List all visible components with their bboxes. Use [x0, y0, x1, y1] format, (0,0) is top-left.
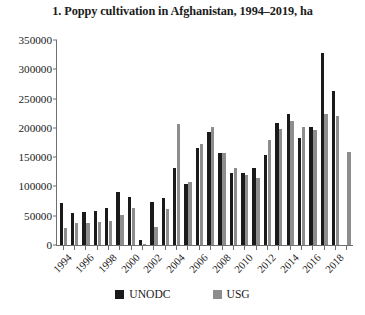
x-axis-tick-mark: [312, 245, 313, 250]
bar-group: [193, 40, 204, 245]
bar-group: [102, 40, 113, 245]
bar-usg: [64, 228, 67, 245]
bar-group: [341, 40, 352, 245]
bar-usg: [211, 127, 214, 245]
bar-group: [239, 40, 250, 245]
x-axis-tick-label: 2014: [278, 252, 301, 275]
bar-group: [307, 40, 318, 245]
x-axis-tick-mark: [153, 245, 154, 250]
x-axis-tick-mark: [256, 245, 257, 250]
bar-usg: [109, 221, 112, 245]
legend-swatch: [115, 290, 124, 299]
bar-usg: [347, 152, 350, 245]
x-axis-tick-mark: [165, 245, 166, 250]
bar-usg: [143, 244, 146, 245]
bar-group: [148, 40, 159, 245]
bar-usg: [279, 129, 282, 245]
bar-group: [68, 40, 79, 245]
x-axis-tick-mark: [267, 245, 268, 250]
x-axis-tick-mark: [222, 245, 223, 250]
bar-group: [250, 40, 261, 245]
bar-group: [80, 40, 91, 245]
x-axis-tick-mark: [176, 245, 177, 250]
plot-area: 3500003000002500002000001500001000005000…: [57, 40, 352, 245]
bar-usg: [302, 127, 305, 245]
bar-unodc: [82, 212, 85, 245]
bar-unodc: [196, 148, 199, 245]
x-axis-tick-label: 2016: [301, 252, 324, 275]
bar-unodc: [207, 132, 210, 245]
bar-unodc: [116, 192, 119, 245]
x-axis-tick-label: 2002: [142, 252, 165, 275]
chart-figure: 1. Poppy cultivation in Afghanistan, 199…: [0, 0, 365, 315]
x-axis-tick-label: 2008: [210, 252, 233, 275]
x-axis-tick-label: 1998: [96, 252, 119, 275]
bar-usg: [268, 140, 271, 245]
y-axis-tick-label: 200000: [18, 122, 57, 134]
y-axis-tick-label: 100000: [18, 180, 57, 192]
legend-swatch: [213, 290, 222, 299]
bar-group: [205, 40, 216, 245]
bar-group: [227, 40, 238, 245]
bar-unodc: [309, 127, 312, 245]
bar-usg: [132, 208, 135, 245]
bar-unodc: [105, 208, 108, 245]
legend-label: UNODC: [129, 288, 170, 301]
x-axis-tick-label: 2006: [187, 252, 210, 275]
x-axis-tick-mark: [335, 245, 336, 250]
x-axis-line: [56, 245, 353, 246]
bar-unodc: [139, 240, 142, 245]
y-axis-tick-label: 250000: [18, 93, 57, 105]
bar-unodc: [275, 123, 278, 245]
bar-unodc: [162, 198, 165, 245]
bar-unodc: [150, 202, 153, 245]
x-axis-tick-mark: [142, 245, 143, 250]
bar-unodc: [321, 53, 324, 245]
x-axis-tick-mark: [97, 245, 98, 250]
y-axis-tick-label: 350000: [18, 34, 57, 46]
x-axis-tick-mark: [119, 245, 120, 250]
bar-usg: [177, 124, 180, 245]
bar-usg: [188, 182, 191, 245]
bar-group: [57, 40, 68, 245]
bar-usg: [98, 222, 101, 245]
bar-group: [284, 40, 295, 245]
bar-group: [159, 40, 170, 245]
bar-usg: [222, 153, 225, 245]
bar-unodc: [287, 114, 290, 245]
chart-legend: UNODCUSG: [0, 288, 365, 301]
bar-usg: [245, 175, 248, 245]
y-axis-tick-label: 300000: [18, 63, 57, 75]
bar-usg: [166, 209, 169, 245]
bar-group: [170, 40, 181, 245]
bar-unodc: [241, 173, 244, 245]
x-axis-tick-mark: [108, 245, 109, 250]
bar-unodc: [71, 213, 74, 245]
bar-usg: [290, 121, 293, 245]
bar-usg: [120, 215, 123, 245]
x-axis-tick-label: 2004: [164, 252, 187, 275]
x-axis-tick-mark: [85, 245, 86, 250]
bar-usg: [313, 130, 316, 245]
bar-unodc: [184, 184, 187, 245]
bar-group: [216, 40, 227, 245]
bar-group: [136, 40, 147, 245]
x-axis-tick-mark: [131, 245, 132, 250]
x-axis-tick-mark: [244, 245, 245, 250]
x-axis-tick-mark: [346, 245, 347, 250]
x-axis-tick-mark: [63, 245, 64, 250]
bar-usg: [86, 223, 89, 245]
x-axis-tick-mark: [290, 245, 291, 250]
bar-unodc: [128, 197, 131, 245]
bar-group: [329, 40, 340, 245]
bar-unodc: [252, 168, 255, 245]
x-axis-tick-label: 1996: [74, 252, 97, 275]
bar-group: [114, 40, 125, 245]
bar-usg: [75, 223, 78, 245]
bar-usg: [234, 168, 237, 245]
bar-unodc: [94, 211, 97, 245]
bar-usg: [324, 114, 327, 245]
x-axis-tick-mark: [324, 245, 325, 250]
bar-group: [125, 40, 136, 245]
bar-group: [318, 40, 329, 245]
